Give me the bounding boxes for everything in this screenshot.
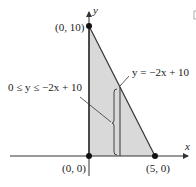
point-origin [86,153,92,159]
point-y-intercept [86,23,92,29]
line-label-leader [120,76,129,86]
y-axis-label: y [92,4,98,16]
label-y-intercept: (0, 10) [55,21,85,34]
point-x-intercept [152,153,158,159]
corner-icon [194,11,196,19]
region-inequality-label: 0 ≤ y ≤ −2x + 10 [8,81,82,93]
region-diagram: y x (0, 10) (0, 0) (5, 0) y = −2x + 10 0… [0,0,196,187]
x-axis-label: x [184,140,190,152]
label-origin: (0, 0) [62,162,86,175]
label-x-intercept: (5, 0) [146,162,170,175]
line-equation-label: y = −2x + 10 [132,66,190,78]
